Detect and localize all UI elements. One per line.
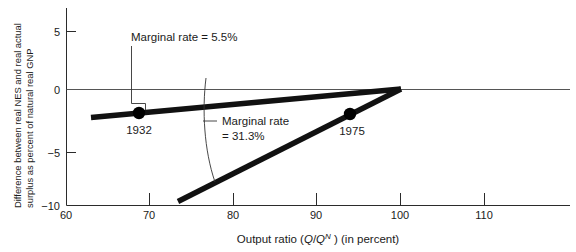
x-tick-label-100: 100 xyxy=(391,209,409,221)
x-tick-label-60: 60 xyxy=(60,209,72,221)
data-point-1975 xyxy=(344,108,356,120)
x-tick-label-70: 70 xyxy=(143,209,155,221)
chart-container: Difference between real NES and real act… xyxy=(0,0,576,252)
y-tick-label-5: 5 xyxy=(54,26,60,38)
x-axis-title-main: Output ratio ( xyxy=(237,233,304,245)
annotation-marginal-rate-1975-line1: Marginal rate xyxy=(222,115,289,127)
x-axis-title-q-den: Q xyxy=(316,233,325,245)
annotation-marginal-rate-1975-line2: = 31.3% xyxy=(222,130,265,142)
y-tick-label-minus5: −5 xyxy=(47,147,60,159)
leader-arc-1975 xyxy=(204,78,215,182)
annotation-marginal-rate-1932: Marginal rate = 5.5% xyxy=(131,31,237,43)
point-label-1975: 1975 xyxy=(339,125,365,137)
x-tick-label-80: 80 xyxy=(227,209,239,221)
x-axis-title-q-num: Q xyxy=(304,233,313,245)
point-label-1932: 1932 xyxy=(126,124,152,136)
data-point-1932 xyxy=(133,107,145,119)
x-tick-label-110: 110 xyxy=(475,209,493,221)
y-tick-label-minus10: −10 xyxy=(41,200,60,212)
y-tick-label-0: 0 xyxy=(54,84,60,96)
x-axis-title: Output ratio (Q/QN ) (in percent) xyxy=(237,232,400,245)
x-axis-title-tail: ) (in percent) xyxy=(331,233,400,245)
leader-line-1932 xyxy=(132,46,146,110)
x-tick-label-90: 90 xyxy=(310,209,322,221)
chart-plot-area: 5 0 −5 −10 60 70 80 90 100 110 Output ra… xyxy=(0,0,576,252)
